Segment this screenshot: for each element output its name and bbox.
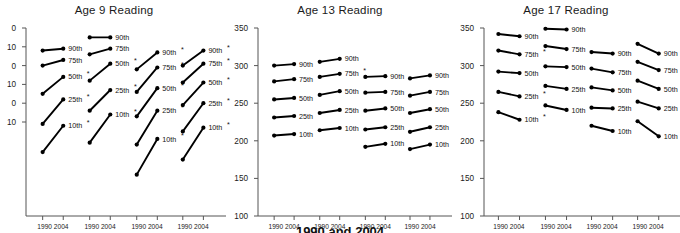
footer-caption: 1990 and 2004 [0,224,680,233]
percentile-segment [43,77,64,94]
plot-area-age-17: 3503002502001501001990 2004All Students9… [452,18,680,233]
percentile-segment [365,144,385,147]
data-point-marker [108,62,112,66]
data-point-marker [272,79,276,83]
data-point-marker [589,85,593,89]
data-point-marker [155,109,159,113]
data-point-marker [517,118,521,122]
data-point-marker [201,48,205,52]
data-point-marker [201,126,205,130]
percentile-segment [365,108,385,110]
percentile-segment [592,69,613,73]
percentile-label: 10th [572,106,586,115]
data-point-marker [496,48,500,52]
y-axis-tick-label: 200 [234,137,248,146]
percentile-segment [498,51,519,55]
percentile-segment [592,126,613,131]
y-axis-tick-label: 0 [11,99,16,108]
percentile-label: 90th [572,25,586,34]
data-point-marker [636,100,640,104]
percentile-label: 75th [618,68,632,77]
data-point-marker [135,114,139,118]
data-point-marker [338,126,342,130]
data-point-marker [292,132,296,136]
percentile-label: 25th [162,106,176,115]
percentile-segment [498,34,519,36]
percentile-label: 25th [115,86,129,95]
percentile-label: 10th [115,110,129,119]
data-point-marker [611,70,615,74]
percentile-label: 25th [68,95,82,104]
significance-asterisk: * [87,92,90,101]
percentile-segment [638,44,659,54]
percentile-label: 75th [208,59,222,68]
percentile-label: 90th [525,32,539,41]
percentile-label: 90th [68,44,82,53]
significance-asterisk: * [87,118,90,127]
percentile-label: 75th [68,56,82,65]
percentile-segment [592,108,613,109]
data-point-marker [496,110,500,114]
percentile-segment [183,51,204,66]
data-point-marker [292,62,296,66]
data-point-marker [517,94,521,98]
percentile-segment [498,112,519,120]
significance-asterisk: * [543,112,546,121]
percentile-segment [90,90,111,111]
data-point-marker [564,108,568,112]
percentile-segment [410,109,430,113]
percentile-label: 25th [390,123,404,132]
y-axis-tick-label: 250 [460,99,474,108]
percentile-label: 90th [435,71,449,80]
data-point-marker [135,67,139,71]
data-point-marker [181,80,185,84]
chart-panel-age-17: Age 17 Reading 3503002502001501001990 20… [452,0,680,233]
percentile-segment [274,98,294,100]
data-point-marker [88,52,92,56]
percentile-label: 75th [390,88,404,97]
percentile-label: 10th [390,139,404,148]
percentile-label: 90th [664,49,678,58]
data-point-marker [543,84,547,88]
data-point-marker [383,106,387,110]
data-point-marker [517,71,521,75]
percentile-segment [592,87,613,90]
y-axis-tick-label: 350 [234,24,248,33]
data-point-marker [61,75,65,79]
data-point-marker [408,147,412,151]
data-point-marker [543,64,547,68]
data-point-marker [589,106,593,110]
data-point-marker [135,90,139,94]
percentile-label: 10th [68,121,82,130]
percentile-segment [592,52,613,54]
data-point-marker [61,58,65,62]
chart-panel-age-9: Age 9 Reading 0100100101990 2004All Stud… [0,0,228,233]
percentile-label: 75th [115,44,129,53]
data-point-marker [41,64,45,68]
percentile-segment [43,60,64,66]
data-point-marker [88,35,92,39]
significance-asterisk: * [87,69,90,78]
percentile-segment [410,127,430,132]
percentile-segment [498,92,519,97]
significance-asterisk: * [181,45,184,54]
percentile-segment [90,49,111,55]
data-point-marker [108,47,112,51]
data-point-marker [611,88,615,92]
percentile-label: 10th [525,115,539,124]
percentile-label: 75th [664,66,678,75]
percentile-segment [90,64,111,81]
percentile-label: 25th [572,85,586,94]
percentile-label: 90th [208,46,222,55]
data-point-marker [155,86,159,90]
y-axis-tick-label: 10 [7,80,17,89]
percentile-label: 25th [435,123,449,132]
y-axis-tick-label: 10 [7,43,17,52]
data-point-marker [564,87,568,91]
percentile-segment [638,102,659,109]
chart-title-age-13: Age 13 Reading [228,4,452,16]
y-axis-tick-label: 350 [460,24,474,33]
data-point-marker [88,109,92,113]
percentile-label: 10th [345,124,359,133]
percentile-label: 90th [115,33,129,42]
